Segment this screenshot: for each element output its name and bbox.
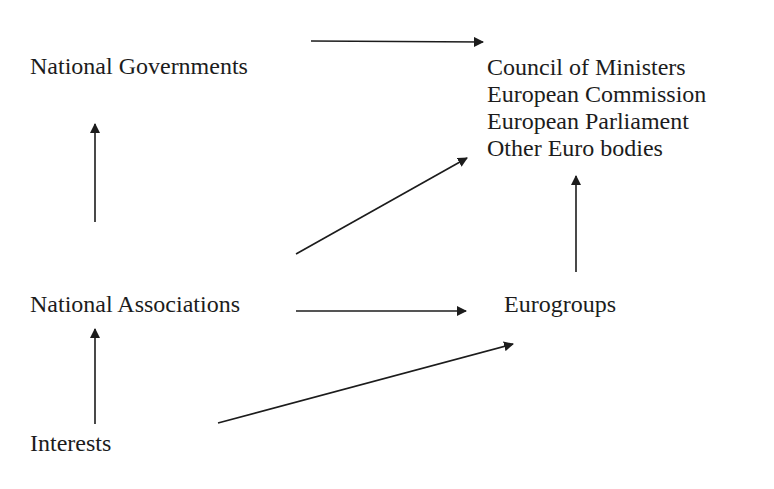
edge-govts-to-euro	[311, 41, 483, 42]
edges-layer	[0, 0, 774, 489]
edge-assoc-to-euro	[296, 158, 467, 254]
edge-interests-to-eurogroups	[218, 344, 513, 423]
